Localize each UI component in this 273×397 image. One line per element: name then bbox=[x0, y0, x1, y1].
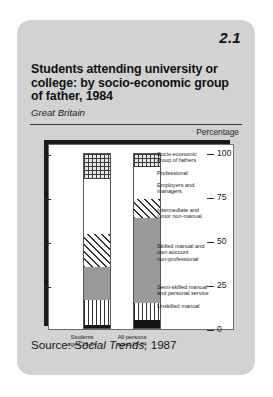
legend-label: Intermediate and bbox=[157, 207, 199, 213]
legend-label: and personal service bbox=[157, 290, 209, 296]
figure-number: 2.1 bbox=[219, 29, 241, 46]
y-axis: 100 75 50 25 0 bbox=[207, 140, 241, 330]
header-divider bbox=[30, 124, 242, 125]
figure-subtitle: Great Britain bbox=[31, 107, 85, 118]
figure-title: Students attending university or college… bbox=[31, 63, 243, 104]
source-prefix: Source: bbox=[31, 338, 71, 351]
segment-semi-skilled bbox=[83, 300, 111, 325]
legend-label: managers bbox=[157, 188, 182, 194]
segment-employers-managers bbox=[83, 179, 111, 234]
y-tick-label: 75 bbox=[217, 192, 227, 202]
source-title: Social Trends, bbox=[74, 338, 147, 351]
legend-label: Semi-skilled manual bbox=[157, 284, 207, 290]
chart-plot-area: Socio-economic group of fathers Professi… bbox=[44, 140, 242, 332]
figure-card: 2.1 Students attending university or col… bbox=[17, 20, 255, 375]
legend-label: own account bbox=[157, 249, 188, 255]
y-tick-label: 50 bbox=[217, 236, 227, 246]
y-tick-label: 100 bbox=[217, 148, 231, 158]
legend-label: Employers and bbox=[157, 182, 194, 188]
segment-unskilled bbox=[83, 325, 111, 329]
y-tick-label: 25 bbox=[217, 280, 227, 290]
legend-label: non-professional bbox=[157, 256, 198, 262]
left-axis-ticks bbox=[43, 145, 51, 335]
source-year: 1987 bbox=[151, 338, 177, 351]
segment-intermediate-junior bbox=[83, 234, 111, 267]
legend-label: Skilled manual and bbox=[157, 243, 204, 249]
legend-heading-line2: group of fathers bbox=[157, 157, 196, 163]
segment-unskilled bbox=[133, 320, 161, 329]
source-line: Source: Social Trends, 1987 bbox=[31, 338, 176, 351]
segment-professional bbox=[83, 153, 111, 179]
unit-label: Percentage bbox=[196, 127, 239, 137]
legend-label: junior non-manual bbox=[157, 213, 202, 219]
legend-label: Unskilled manual bbox=[157, 303, 200, 309]
y-tick-label: 0 bbox=[217, 324, 222, 334]
segment-skilled-manual bbox=[83, 267, 111, 300]
figure-page: 2.1 Students attending university or col… bbox=[0, 0, 273, 397]
legend-heading-line1: Socio-economic bbox=[157, 151, 197, 157]
legend-label: Professional bbox=[157, 170, 188, 176]
bar-students bbox=[83, 153, 111, 329]
